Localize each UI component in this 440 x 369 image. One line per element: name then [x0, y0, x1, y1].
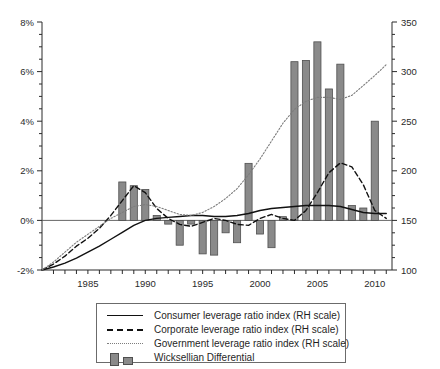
legend-item-consumer: Consumer leverage ratio index (RH scale)	[105, 309, 345, 322]
bar	[165, 220, 172, 224]
bar	[337, 64, 344, 220]
chart-legend: Consumer leverage ratio index (RH scale)…	[96, 303, 346, 363]
legend-label-wicksellian: Wicksellian Differential	[154, 352, 254, 364]
x-axis-tick-label: 2010	[364, 278, 385, 289]
right-axis-tick-label: 250	[401, 116, 417, 127]
right-axis-tick-label: 200	[401, 165, 417, 176]
bar	[360, 208, 367, 220]
bar	[268, 220, 275, 247]
bar	[325, 89, 332, 220]
legend-item-wicksellian: Wicksellian Differential	[105, 351, 345, 364]
left-axis-tick-label: -2%	[17, 265, 34, 276]
bar	[302, 60, 309, 220]
x-axis-tick-label: 2005	[307, 278, 328, 289]
left-axis-tick-label: 2%	[20, 165, 34, 176]
bar	[371, 121, 378, 220]
legend-item-corporate: Corporate leverage ratio index (RH scale…	[105, 323, 345, 336]
right-axis-tick-label: 300	[401, 66, 417, 77]
bar	[348, 206, 355, 221]
bar	[130, 186, 137, 221]
bar	[256, 220, 263, 234]
right-axis-tick-label: 150	[401, 215, 417, 226]
legend-label-corporate: Corporate leverage ratio index (RH scale…	[154, 324, 339, 336]
right-axis-tick-label: 350	[401, 17, 417, 28]
left-axis-tick-label: 4%	[20, 116, 34, 127]
bar	[291, 62, 298, 221]
x-axis-tick-label: 2000	[249, 278, 270, 289]
bar	[188, 220, 195, 224]
left-axis-tick-label: 6%	[20, 66, 34, 77]
legend-label-consumer: Consumer leverage ratio index (RH scale)	[154, 310, 340, 322]
bar	[199, 220, 206, 253]
bar-swatch-key-icon	[105, 352, 147, 364]
bar	[314, 42, 321, 221]
legend-item-government: Government leverage ratio index (RH scal…	[105, 337, 345, 350]
x-axis-tick-label: 1995	[192, 278, 213, 289]
solid-line-key-icon	[105, 310, 147, 322]
right-axis-tick-label: 100	[401, 265, 417, 276]
x-axis-tick-label: 1990	[135, 278, 156, 289]
left-axis-tick-label: 0%	[20, 215, 34, 226]
x-axis-tick-label: 1985	[77, 278, 98, 289]
bar	[222, 220, 229, 232]
legend-label-government: Government leverage ratio index (RH scal…	[154, 338, 349, 350]
left-axis-tick-label: 8%	[20, 17, 34, 28]
chart-figure: -2%0%2%4%6%8%100150200250300350198519901…	[0, 0, 440, 369]
dashed-line-key-icon	[105, 324, 147, 336]
bar	[211, 220, 218, 255]
dotted-line-key-icon	[105, 338, 147, 350]
